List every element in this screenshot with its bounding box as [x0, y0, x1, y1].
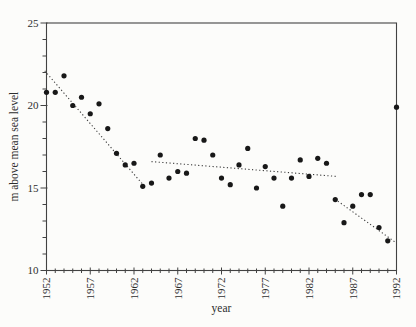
data-point: [149, 180, 154, 185]
data-point: [210, 152, 215, 157]
data-point: [105, 126, 110, 131]
data-point: [175, 169, 180, 174]
x-tick-label: 1952: [40, 278, 52, 300]
x-tick-label: 1957: [84, 277, 96, 300]
data-point: [333, 197, 338, 202]
y-axis-title: m above mean sea level: [8, 92, 20, 202]
data-point: [184, 171, 189, 176]
data-point: [236, 162, 241, 167]
data-point: [123, 162, 128, 167]
trend-line: [338, 201, 396, 242]
data-point: [245, 146, 250, 151]
x-axis-title: year: [212, 302, 232, 315]
plot-frame: [47, 23, 397, 271]
data-point: [193, 136, 198, 141]
data-point: [219, 176, 224, 181]
data-point: [271, 176, 276, 181]
x-tick-label: 1992: [390, 278, 402, 300]
scatter-plot: 1952195719621967197219771982198719921015…: [0, 0, 416, 327]
data-point: [263, 164, 268, 169]
data-point: [315, 156, 320, 161]
data-point: [70, 103, 75, 108]
data-point: [44, 90, 49, 95]
data-point: [96, 101, 101, 106]
data-point: [341, 220, 346, 225]
data-point: [376, 225, 381, 230]
x-tick-label: 1982: [303, 278, 315, 300]
data-point: [53, 90, 58, 95]
data-point: [350, 204, 355, 209]
data-point: [79, 95, 84, 100]
data-point: [228, 182, 233, 187]
data-point: [280, 204, 285, 209]
x-tick-label: 1977: [259, 277, 271, 300]
x-tick-label: 1967: [172, 277, 184, 300]
data-point: [368, 192, 373, 197]
data-point: [254, 185, 259, 190]
figure-canvas: 1952195719621967197219771982198719921015…: [0, 0, 416, 327]
data-point: [298, 157, 303, 162]
data-point: [306, 174, 311, 179]
data-point: [158, 152, 163, 157]
data-point: [61, 73, 66, 78]
x-tick-label: 1962: [128, 278, 140, 300]
y-tick-label: 15: [28, 182, 40, 194]
x-tick-label: 1972: [215, 278, 227, 300]
data-point: [166, 176, 171, 181]
data-point: [114, 151, 119, 156]
trend-line: [45, 71, 145, 187]
plot-generated-layer: 1952195719621967197219771982198719921015…: [28, 17, 403, 300]
data-point: [131, 161, 136, 166]
data-point: [394, 105, 399, 110]
data-point: [324, 161, 329, 166]
data-point: [201, 138, 206, 143]
data-point: [140, 184, 145, 189]
data-point: [359, 192, 364, 197]
y-tick-label: 10: [28, 264, 40, 276]
data-point: [88, 111, 93, 116]
y-tick-label: 20: [28, 99, 40, 111]
data-point: [385, 238, 390, 243]
x-tick-label: 1987: [347, 277, 359, 300]
y-tick-label: 25: [28, 17, 40, 29]
data-point: [289, 176, 294, 181]
